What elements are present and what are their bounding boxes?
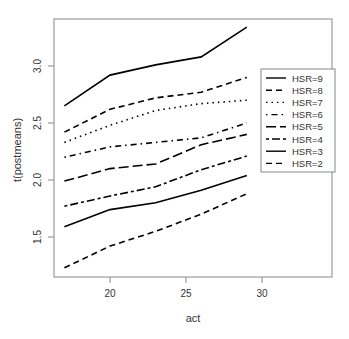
legend-label: HSR=4 <box>292 134 323 145</box>
y-tick-label: 3.0 <box>32 59 43 73</box>
y-tick-label: 1.5 <box>32 230 43 244</box>
y-tick-label: 2.5 <box>32 116 43 130</box>
series-line-hsr-9 <box>64 27 246 106</box>
y-axis: 1.52.02.53.0 <box>32 59 54 244</box>
series-line-hsr-2 <box>64 194 246 268</box>
series-line-hsr-8 <box>64 77 246 132</box>
x-axis-label: act <box>186 312 201 324</box>
legend-label: HSR=8 <box>292 85 323 96</box>
y-tick-label: 2.0 <box>32 173 43 187</box>
series-line-hsr-5 <box>64 134 246 181</box>
line-chart: 1.52.02.53.0 202530 act t(postmeans) HSR… <box>0 0 349 339</box>
series-lines <box>64 27 246 268</box>
legend-label: HSR=9 <box>292 73 323 84</box>
y-axis-label: t(postmeans) <box>11 118 23 182</box>
legend: HSR=9HSR=8HSR=7HSR=6HSR=5HSR=4HSR=3HSR=2 <box>261 69 335 172</box>
series-line-hsr-3 <box>64 175 246 226</box>
legend-label: HSR=7 <box>292 97 323 108</box>
legend-label: HSR=2 <box>292 158 323 169</box>
legend-label: HSR=5 <box>292 121 323 132</box>
x-tick-label: 20 <box>104 288 116 299</box>
legend-label: HSR=3 <box>292 146 323 157</box>
x-tick-label: 25 <box>180 288 192 299</box>
legend-label: HSR=6 <box>292 109 323 120</box>
series-line-hsr-7 <box>64 100 246 142</box>
x-axis: 202530 <box>104 277 268 299</box>
x-tick-label: 30 <box>256 288 268 299</box>
